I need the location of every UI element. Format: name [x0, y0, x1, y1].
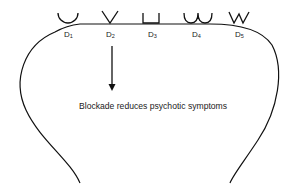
d3-receptor-icon [143, 13, 159, 23]
label-d2: D2 [106, 30, 115, 39]
label-d3: D3 [148, 30, 157, 39]
d5-receptor-icon [229, 12, 249, 23]
d1-receptor-icon [58, 13, 78, 23]
caption-text: Blockade reduces psychotic symptoms [79, 101, 227, 111]
d2-receptor-icon [102, 11, 118, 23]
label-d1: D1 [64, 30, 73, 39]
label-d5: D5 [235, 30, 244, 39]
d4-receptor-icon [184, 13, 212, 23]
diagram-canvas [0, 0, 306, 187]
label-d4: D4 [192, 30, 201, 39]
arrow-head-icon [109, 84, 116, 91]
